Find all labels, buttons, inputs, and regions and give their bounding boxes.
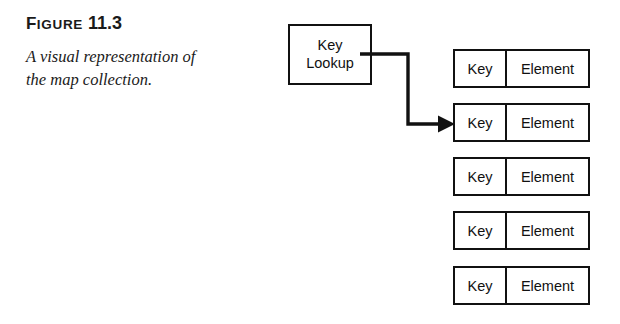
map-entry-row: Key Element — [453, 266, 590, 305]
figure-page: FIGURE11.3 A visual representation of th… — [0, 0, 620, 324]
map-entry-row: Key Element — [453, 211, 590, 250]
map-entry-key-cell: Key — [455, 268, 507, 303]
map-entry-element-cell: Element — [507, 51, 588, 86]
lookup-to-row-connector-arrow-icon — [360, 40, 464, 140]
map-entry-row: Key Element — [453, 49, 590, 88]
map-entry-row: Key Element — [453, 157, 590, 196]
map-entry-key-cell: Key — [455, 105, 507, 140]
key-lookup-line-2: Lookup — [306, 55, 354, 73]
map-entry-key-cell: Key — [455, 213, 507, 248]
map-collection-diagram: Key Lookup Key Element Key Element Key E… — [0, 0, 620, 324]
map-entry-element-cell: Element — [507, 213, 588, 248]
map-entry-element-cell: Element — [507, 268, 588, 303]
map-entry-element-cell: Element — [507, 105, 588, 140]
map-entry-key-cell: Key — [455, 159, 507, 194]
map-entry-element-cell: Element — [507, 159, 588, 194]
map-entry-row: Key Element — [453, 103, 590, 142]
key-lookup-line-1: Key — [318, 37, 343, 55]
map-entry-key-cell: Key — [455, 51, 507, 86]
